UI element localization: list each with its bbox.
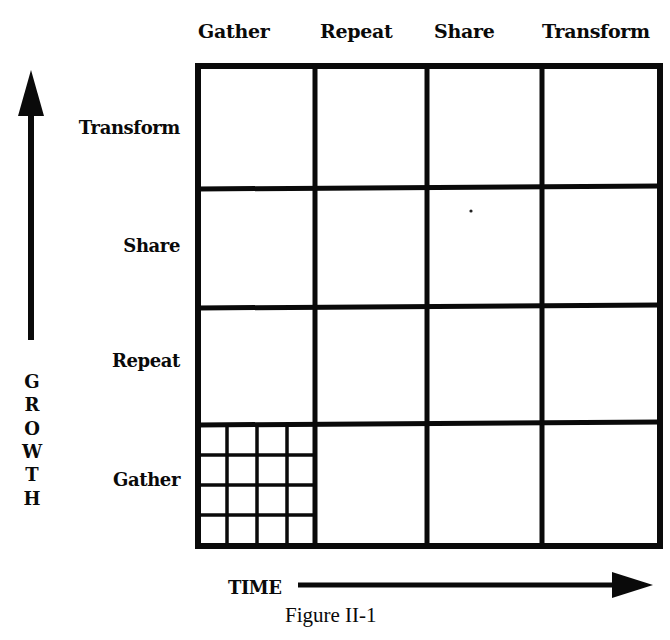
time-arrow-icon	[298, 572, 653, 598]
main-grid	[198, 66, 660, 546]
growth-arrow-icon	[18, 70, 44, 340]
matrix-diagram	[0, 0, 670, 640]
speck-mark	[469, 209, 472, 212]
gather-gather-subgrid	[198, 425, 315, 546]
